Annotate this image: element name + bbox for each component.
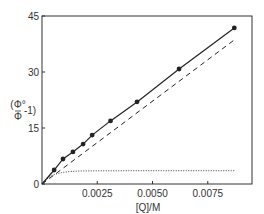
x-axis-label: [Q]/M — [136, 202, 160, 213]
data-point-marker — [135, 99, 140, 104]
y-tick-label: 0 — [33, 179, 39, 190]
data-point-marker — [52, 168, 57, 173]
y-tick-label: 15 — [28, 123, 40, 134]
series-group — [42, 26, 237, 184]
data-point-marker — [90, 133, 95, 138]
data-point-marker — [81, 142, 86, 147]
data-point-marker — [71, 149, 76, 154]
plot-frame — [42, 16, 252, 184]
data-point-marker — [177, 67, 182, 72]
svg-text:-1): -1) — [24, 105, 36, 116]
series-line-solid — [42, 28, 234, 184]
y-tick-label: 30 — [28, 67, 40, 78]
y-tick-label: 45 — [28, 11, 40, 22]
x-tick-label: 0.0025 — [82, 188, 113, 199]
x-tick-label: 0.0075 — [192, 188, 223, 199]
data-point-marker — [61, 157, 66, 162]
chart: 0153045 0.00250.00500.0075 [Q]/M (Φ° Φ -… — [0, 0, 264, 214]
data-point-marker — [108, 119, 113, 124]
svg-text:Φ: Φ — [14, 111, 22, 122]
y-axis-label: (Φ° Φ -1) — [10, 99, 36, 122]
series-line-dotted — [42, 171, 234, 184]
x-tick-label: 0.0050 — [137, 188, 168, 199]
data-point-marker — [232, 26, 237, 31]
series-line-dashed — [42, 40, 234, 184]
